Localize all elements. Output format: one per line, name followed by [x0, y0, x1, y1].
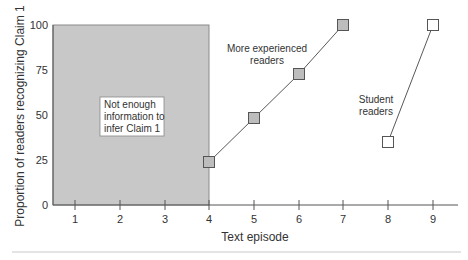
x-tick-labels: 1 2 3 4 5 6 7 8 9	[72, 213, 436, 225]
annotation-student-line1: Student	[359, 94, 394, 105]
x-tick-9: 9	[430, 213, 436, 225]
region-label-line2: information to	[104, 111, 165, 122]
y-tick-25: 25	[36, 154, 48, 166]
marker-exp-5	[249, 113, 260, 124]
x-tick-6: 6	[296, 213, 302, 225]
marker-exp-6	[294, 69, 305, 80]
x-tick-2: 2	[117, 213, 123, 225]
chart: 100 75 50 25 0 1 2 3 4 5 6 7 8 9 Text ep…	[0, 0, 468, 260]
y-axis-title: Proportion of readers recognizing Claim …	[13, 5, 27, 227]
x-tick-1: 1	[72, 213, 78, 225]
annotation-more-experienced-line1: More experienced	[227, 43, 307, 54]
y-tick-50: 50	[36, 109, 48, 121]
marker-exp-4	[204, 157, 215, 168]
x-tick-7: 7	[340, 213, 346, 225]
y-tick-100: 100	[30, 19, 48, 31]
region-label-line1: Not enough	[104, 99, 156, 110]
y-tick-75: 75	[36, 64, 48, 76]
marker-exp-7	[338, 20, 349, 31]
x-tick-4: 4	[206, 213, 212, 225]
x-tick-8: 8	[385, 213, 391, 225]
x-tick-3: 3	[162, 213, 168, 225]
x-axis-title: Text episode	[221, 230, 289, 244]
annotation-student-line2: readers	[359, 106, 393, 117]
y-ticks: 100 75 50 25 0	[30, 19, 48, 211]
region-label: Not enough information to infer Claim 1	[100, 97, 165, 136]
marker-student-9	[428, 20, 439, 31]
series-more-experienced-markers	[204, 20, 349, 168]
series-student-line	[388, 25, 433, 142]
region-label-line3: infer Claim 1	[104, 123, 161, 134]
annotation-more-experienced-line2: readers	[250, 55, 284, 66]
marker-student-8	[383, 137, 394, 148]
x-tick-5: 5	[251, 213, 257, 225]
y-tick-0: 0	[42, 199, 48, 211]
